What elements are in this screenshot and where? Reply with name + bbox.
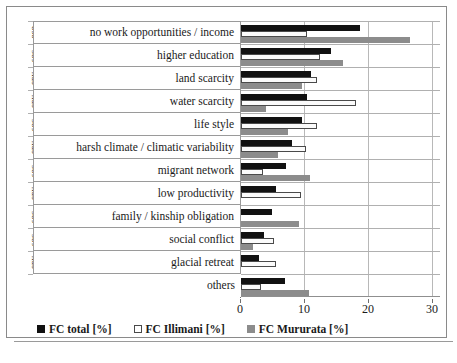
x-tick-label: 0 [237, 302, 243, 317]
bar-total[interactable] [241, 186, 276, 192]
category-band [240, 159, 440, 182]
legend-swatch-icon-fc-illimani [134, 325, 142, 333]
bar-total[interactable] [241, 209, 272, 215]
category-label-5: life style [33, 113, 241, 136]
category-label-text: no work opportunities / income [90, 26, 240, 39]
category-label-text: family / kinship obligation [112, 210, 240, 223]
bar-total[interactable] [241, 25, 360, 31]
plot-area [240, 21, 440, 297]
bar-total[interactable] [241, 140, 292, 146]
legend-divider [14, 341, 453, 342]
category-label-3: land scarcity [33, 67, 241, 90]
bar-total[interactable] [241, 278, 285, 284]
bar-illimani[interactable] [241, 284, 261, 290]
bar-illimani[interactable] [241, 261, 276, 267]
bar-illimani[interactable] [241, 192, 301, 198]
x-tick-label: 20 [362, 302, 374, 317]
category-label-2: higher education [33, 44, 241, 67]
bar-total[interactable] [241, 94, 307, 100]
category-label-6: harsh climate / climatic variability [33, 136, 241, 159]
category-label-text: life style [194, 118, 240, 131]
category-label-text: social conflict [169, 233, 240, 246]
legend-swatch-icon-fc-total [37, 325, 45, 333]
bar-illimani[interactable] [241, 123, 317, 129]
x-tick-label: 10 [298, 302, 310, 317]
bar-illimani[interactable] [241, 169, 263, 175]
category-label-text: harsh climate / climatic variability [76, 141, 240, 154]
category-label-11: glacial retreat [33, 251, 241, 274]
bar-illimani[interactable] [241, 54, 320, 60]
category-label-4: water scarcity [33, 90, 241, 113]
category-band [240, 21, 440, 44]
legend-label-fc-illimani: FC Illimani [%] [146, 323, 225, 335]
category-band [240, 205, 440, 228]
legend-item-fc-total: FC total [%] [37, 323, 112, 335]
bar-illimani[interactable] [241, 146, 306, 152]
x-tick-label: 30 [426, 302, 438, 317]
bar-total[interactable] [241, 71, 311, 77]
bar-mururata[interactable] [241, 106, 266, 112]
bar-mururata[interactable] [241, 129, 288, 135]
bar-mururata[interactable] [241, 152, 278, 158]
bar-total[interactable] [241, 163, 286, 169]
bar-mururata[interactable] [241, 60, 343, 66]
bar-total[interactable] [241, 117, 302, 123]
bar-illimani[interactable] [241, 100, 356, 106]
category-label-text: others [207, 279, 241, 292]
chart-legend: FC total [%] FC Illimani [%] FC Mururata… [37, 320, 437, 338]
bar-total[interactable] [241, 255, 259, 261]
category-label-column: no work opportunities / incomehigher edu… [33, 21, 241, 274]
x-axis: 0102030 [240, 299, 440, 315]
category-label-text: migrant network [158, 164, 240, 177]
legend-swatch-icon-fc-mururata [247, 325, 255, 333]
bar-mururata[interactable] [241, 244, 253, 250]
bar-total[interactable] [241, 232, 264, 238]
category-label-10: social conflict [33, 228, 241, 251]
category-label-7: migrant network [33, 159, 241, 182]
chart-frame: ecosocenvenvsocenvsocenvsocsocenv no wor… [6, 6, 447, 338]
bar-total[interactable] [241, 48, 331, 54]
bar-illimani[interactable] [241, 238, 274, 244]
bar-mururata[interactable] [241, 221, 299, 227]
bar-mururata[interactable] [241, 290, 309, 296]
category-label-text: water scarcity [170, 95, 240, 108]
category-band [240, 228, 440, 251]
category-label-12: others [33, 274, 241, 297]
category-band [240, 90, 440, 113]
category-label-9: family / kinship obligation [33, 205, 241, 228]
category-band [240, 274, 440, 297]
bar-mururata[interactable] [241, 83, 302, 89]
category-band [240, 136, 440, 159]
bar-mururata[interactable] [241, 175, 310, 181]
bar-illimani[interactable] [241, 31, 307, 37]
category-label-1: no work opportunities / income [33, 21, 241, 44]
legend-label-fc-mururata: FC Mururata [%] [259, 323, 348, 335]
category-band [240, 113, 440, 136]
category-band [240, 67, 440, 90]
legend-item-fc-illimani: FC Illimani [%] [134, 323, 225, 335]
category-label-text: higher education [157, 49, 240, 62]
category-band [240, 44, 440, 67]
bar-mururata[interactable] [241, 37, 410, 43]
category-band [240, 182, 440, 205]
category-label-text: glacial retreat [171, 256, 240, 269]
legend-label-fc-total: FC total [%] [49, 323, 112, 335]
category-label-text: land scarcity [176, 72, 240, 85]
legend-item-fc-mururata: FC Mururata [%] [247, 323, 348, 335]
category-label-8: low productivity [33, 182, 241, 205]
category-band [240, 251, 440, 274]
category-label-text: low productivity [158, 187, 240, 200]
bar-illimani[interactable] [241, 77, 317, 83]
